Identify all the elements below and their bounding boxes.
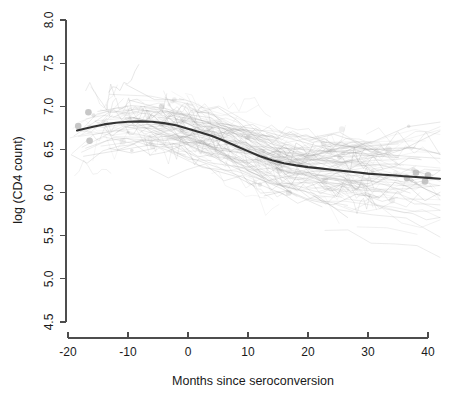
y-tick-label: 7.0 xyxy=(42,98,56,115)
observation-marker xyxy=(167,103,170,106)
y-axis-title: log (CD4 count) xyxy=(11,136,25,224)
observation-marker xyxy=(128,117,132,121)
highlighted-observation-dot xyxy=(413,169,420,176)
observation-marker xyxy=(92,113,96,117)
y-tick-label: 8.0 xyxy=(42,11,56,28)
observation-marker xyxy=(389,197,395,203)
observation-marker xyxy=(172,97,177,102)
x-tick-label: 40 xyxy=(421,345,435,359)
highlighted-observation-dot xyxy=(85,109,92,116)
x-tick-label: 30 xyxy=(361,345,375,359)
y-tick-label: 5.5 xyxy=(42,227,56,244)
y-tick-label: 5.0 xyxy=(42,270,56,287)
observation-marker xyxy=(206,127,211,132)
highlighted-observation-dot xyxy=(86,138,93,145)
observation-marker xyxy=(150,143,156,149)
observation-marker xyxy=(371,169,375,173)
observation-marker xyxy=(374,148,378,152)
observation-marker xyxy=(414,181,417,184)
x-axis-title: Months since seroconversion xyxy=(172,374,334,388)
x-tick-label: 0 xyxy=(185,345,192,359)
observation-marker xyxy=(276,168,282,174)
observation-marker xyxy=(159,104,165,110)
chart-container: 4.55.05.56.06.57.07.58.0 -20-10010203040… xyxy=(0,0,465,403)
x-tick-label: -20 xyxy=(59,345,77,359)
y-tick-label: 4.5 xyxy=(42,313,56,330)
x-tick-label: 20 xyxy=(301,345,315,359)
observation-marker xyxy=(120,138,126,144)
highlighted-observation-dot xyxy=(75,123,82,130)
observation-marker xyxy=(180,118,183,121)
observation-marker xyxy=(407,125,410,128)
y-tick-label: 6.0 xyxy=(42,184,56,201)
x-tick-label: -10 xyxy=(119,345,137,359)
observation-marker xyxy=(277,152,281,156)
chart-background xyxy=(0,0,465,403)
y-tick-label: 6.5 xyxy=(42,141,56,158)
observation-marker xyxy=(130,149,134,153)
observation-marker xyxy=(339,126,345,132)
cd4-trajectory-chart: 4.55.05.56.06.57.07.58.0 -20-10010203040… xyxy=(0,0,465,403)
x-tick-label: 10 xyxy=(241,345,255,359)
y-tick-label: 7.5 xyxy=(42,54,56,71)
observation-marker xyxy=(259,149,265,155)
highlighted-observation-dot xyxy=(422,178,429,185)
